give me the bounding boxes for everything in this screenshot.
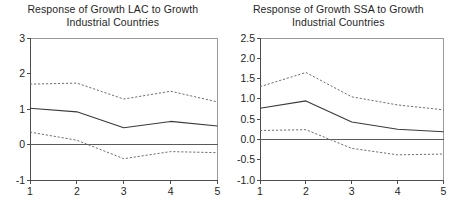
y-tick-label: 0.0 bbox=[240, 133, 255, 145]
x-tick-label: 2 bbox=[74, 185, 80, 197]
series-line-dashed bbox=[30, 132, 218, 159]
y-tick-label: -1.0 bbox=[236, 174, 254, 186]
x-tick-label: 3 bbox=[348, 185, 354, 197]
x-tick-label: 5 bbox=[440, 185, 446, 197]
chart-svg-ssa: -1.0-0.50.00.51.01.52.02.512345 bbox=[226, 0, 451, 208]
x-tick-label: 3 bbox=[121, 185, 127, 197]
impulse-response-figure: Response of Growth LAC to Growth Industr… bbox=[0, 0, 451, 208]
y-tick-label: 3 bbox=[19, 32, 25, 44]
x-tick-label: 1 bbox=[27, 185, 33, 197]
y-tick-label: 2 bbox=[19, 67, 25, 79]
x-tick-label: 5 bbox=[215, 185, 221, 197]
x-tick-label: 2 bbox=[302, 185, 308, 197]
y-tick-label: -1 bbox=[16, 174, 25, 186]
panel-ssa: Response of Growth SSA to Growth Industr… bbox=[226, 0, 451, 208]
y-tick-label: -0.5 bbox=[236, 153, 254, 165]
y-tick-label: 1.5 bbox=[240, 72, 255, 84]
y-tick-label: 2.5 bbox=[240, 32, 255, 44]
y-tick-label: 1 bbox=[19, 103, 25, 115]
panel-lac: Response of Growth LAC to Growth Industr… bbox=[0, 0, 226, 208]
y-tick-label: 1.0 bbox=[240, 92, 255, 104]
y-tick-label: 2.0 bbox=[240, 52, 255, 64]
series-line-solid bbox=[30, 108, 218, 128]
series-line-dashed bbox=[30, 83, 218, 102]
plot-area-ssa: -1.0-0.50.00.51.01.52.02.512345 bbox=[226, 0, 451, 208]
series-line-solid bbox=[260, 101, 444, 132]
x-tick-label: 4 bbox=[394, 185, 400, 197]
x-tick-label: 1 bbox=[257, 185, 263, 197]
x-tick-label: 4 bbox=[168, 185, 174, 197]
y-tick-label: 0.5 bbox=[240, 113, 255, 125]
series-line-dashed bbox=[260, 130, 444, 155]
chart-svg-lac: -1012312345 bbox=[0, 0, 226, 208]
plot-area-lac: -1012312345 bbox=[0, 0, 226, 208]
y-tick-label: 0 bbox=[19, 138, 25, 150]
